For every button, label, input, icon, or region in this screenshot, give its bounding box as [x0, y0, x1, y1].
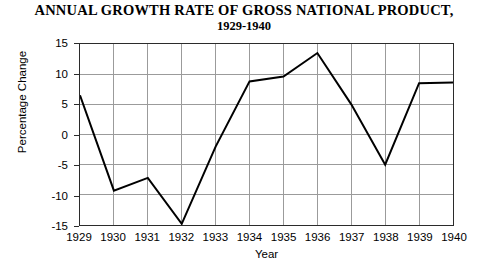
- x-axis-tick-label: 1940: [431, 231, 477, 244]
- data-series-line: [80, 44, 453, 225]
- plot-area: [79, 43, 454, 226]
- y-axis-tick-label: -5: [28, 159, 68, 171]
- y-axis-tick-label: 0: [28, 129, 68, 141]
- y-axis-label: Percentage Change: [16, 42, 28, 162]
- y-axis-tick-label: 5: [28, 98, 68, 110]
- chart-title: ANNUAL GROWTH RATE OF GROSS NATIONAL PRO…: [0, 2, 488, 19]
- chart-subtitle: 1929-1940: [0, 19, 488, 34]
- y-axis-tick-label: -10: [28, 190, 68, 202]
- x-axis-label: Year: [79, 248, 454, 260]
- chart-figure: ANNUAL GROWTH RATE OF GROSS NATIONAL PRO…: [0, 0, 488, 268]
- y-axis-tick-mark: [74, 226, 79, 227]
- y-axis-tick-label: 10: [28, 68, 68, 80]
- chart-title-block: ANNUAL GROWTH RATE OF GROSS NATIONAL PRO…: [0, 2, 488, 34]
- y-axis-tick-label: 15: [28, 37, 68, 49]
